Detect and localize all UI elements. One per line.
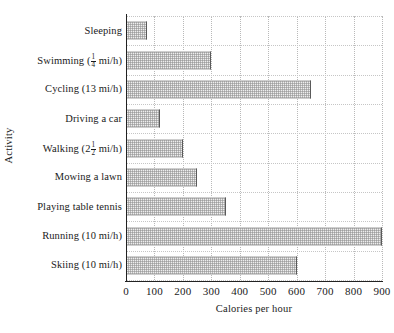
category-label: Cycling (13 mi/h) bbox=[12, 83, 122, 95]
category-label-text: Mowing a lawn bbox=[55, 171, 122, 182]
category-label: Walking (212 mi/h) bbox=[12, 142, 122, 157]
category-label-text: Walking (2 bbox=[43, 143, 91, 154]
x-tick-label: 300 bbox=[203, 285, 220, 297]
bar bbox=[126, 256, 297, 275]
x-axis-line bbox=[125, 281, 383, 282]
bar bbox=[126, 109, 160, 128]
category-label-text: Swimming ( bbox=[37, 55, 90, 66]
bar bbox=[126, 139, 183, 158]
bars-layer bbox=[126, 16, 382, 280]
x-tick-label: 0 bbox=[123, 285, 129, 297]
x-tick-label: 500 bbox=[260, 285, 277, 297]
x-tick-label: 100 bbox=[146, 285, 163, 297]
bar bbox=[126, 168, 197, 187]
category-label-text: Skiing (10 mi/h) bbox=[51, 259, 122, 270]
bar bbox=[126, 197, 226, 216]
gridline-vertical bbox=[382, 16, 383, 280]
category-label-text: Driving a car bbox=[65, 113, 122, 124]
bar bbox=[126, 51, 211, 70]
bar bbox=[126, 227, 382, 246]
bar-chart: Activity SleepingSwimming (14 mi/h)Cycli… bbox=[0, 0, 394, 333]
x-tick-label: 800 bbox=[345, 285, 362, 297]
category-label: Playing table tennis bbox=[12, 201, 122, 213]
plot-area bbox=[126, 16, 382, 280]
x-axis-tick-labels: 0100200300400500600700800900 bbox=[126, 285, 382, 299]
category-label: Mowing a lawn bbox=[12, 171, 122, 183]
category-label-text: Playing table tennis bbox=[37, 201, 122, 212]
category-label-text: Cycling (13 mi/h) bbox=[45, 83, 122, 94]
fraction-denominator: 4 bbox=[91, 62, 96, 69]
x-axis-title: Calories per hour bbox=[126, 303, 382, 314]
y-axis-line bbox=[126, 14, 127, 282]
x-tick-label: 600 bbox=[288, 285, 305, 297]
category-label: Running (10 mi/h) bbox=[12, 230, 122, 242]
x-tick-label: 700 bbox=[317, 285, 334, 297]
category-label-text: Running (10 mi/h) bbox=[42, 230, 122, 241]
category-label: Driving a car bbox=[12, 113, 122, 125]
category-label: Skiing (10 mi/h) bbox=[12, 259, 122, 271]
fraction: 14 bbox=[91, 54, 96, 69]
fraction-denominator: 2 bbox=[91, 150, 96, 157]
category-label-suffix: mi/h) bbox=[96, 143, 122, 154]
x-tick-label: 200 bbox=[174, 285, 191, 297]
category-label-suffix: mi/h) bbox=[96, 55, 122, 66]
category-label: Swimming (14 mi/h) bbox=[12, 54, 122, 69]
category-label: Sleeping bbox=[12, 25, 122, 37]
fraction: 12 bbox=[91, 142, 96, 157]
category-axis-labels: SleepingSwimming (14 mi/h)Cycling (13 mi… bbox=[12, 16, 122, 280]
bar bbox=[126, 80, 311, 99]
x-tick-label: 400 bbox=[231, 285, 248, 297]
bar bbox=[126, 21, 147, 40]
x-tick-label: 900 bbox=[373, 285, 390, 297]
category-label-text: Sleeping bbox=[84, 25, 122, 36]
